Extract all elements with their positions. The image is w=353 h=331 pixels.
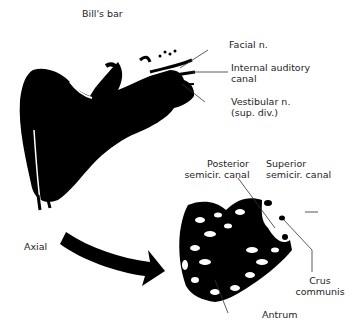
label-iac-line2: canal [231, 73, 257, 84]
label-superior-line1: Superior [266, 158, 306, 169]
label-iac-line1: Internal auditory [231, 62, 310, 73]
label-vestibular-line2: (sup. div.) [231, 107, 278, 118]
label-bills-bar: Bill's bar [82, 8, 123, 19]
label-axial: Axial [24, 241, 47, 252]
label-posterior-line1: Posterior [193, 158, 263, 169]
label-facial-nerve: Facial n. [229, 39, 268, 50]
axial-arrow [60, 232, 165, 286]
label-antrum: Antrum [262, 309, 297, 320]
petrous-bone-section [20, 50, 195, 211]
label-superior-line2: semicir. canal [266, 169, 331, 180]
label-posterior-line2: semicir. canal [167, 169, 267, 180]
label-crus-line2: communis [290, 286, 350, 297]
label-crus-line1: Crus [290, 275, 350, 286]
label-vestibular-line1: Vestibular n. [231, 96, 290, 107]
